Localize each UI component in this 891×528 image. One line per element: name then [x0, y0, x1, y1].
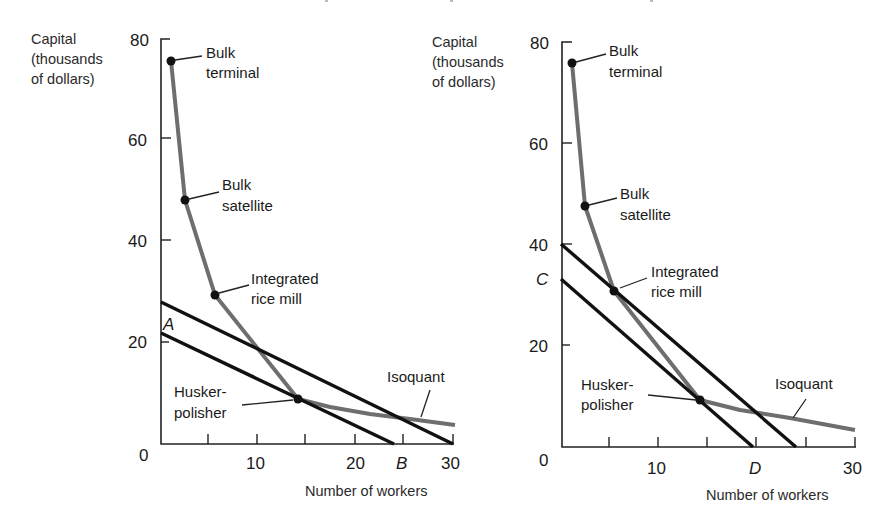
right-leader-lines: [576, 54, 806, 418]
left-label-isoquant: Isoquant: [387, 368, 445, 385]
cropped-header-remnant: [325, 0, 653, 2]
right-y-tick-40: 40: [529, 236, 548, 255]
left-point-bulk-terminal: [167, 57, 176, 66]
left-x-ticks: [208, 434, 453, 444]
left-y-ticks: [161, 138, 171, 342]
right-x-ticks: [609, 437, 855, 447]
left-point-bulk-satellite: [181, 196, 190, 205]
left-chart: Capital (thousands of dollars) 80 60 40 …: [31, 31, 460, 499]
right-label-integrated-rice-mill: Integrated rice mill: [651, 263, 723, 300]
right-y-tick-20: 20: [529, 337, 548, 356]
right-y-tick-80: 80: [530, 34, 549, 53]
left-x-tick-20: 20: [346, 454, 365, 473]
right-point-husker-polisher: [696, 396, 705, 405]
right-y-tick-60: 60: [529, 135, 548, 154]
left-y-tick-60: 60: [128, 131, 147, 150]
right-y-axis-label: Capital (thousands of dollars): [432, 34, 508, 90]
left-label-bulk-terminal: Bulk terminal: [206, 44, 259, 81]
left-x-axis-label: Number of workers: [305, 483, 427, 499]
left-x-tick-30: 30: [441, 454, 460, 473]
left-point-husker-polisher: [294, 395, 303, 404]
left-y-axis-label: Capital (thousands of dollars): [31, 31, 107, 87]
left-leader-lines: [175, 56, 430, 417]
left-label-bulk-satellite: Bulk satellite: [222, 176, 273, 214]
right-label-bulk-satellite: Bulk satellite: [620, 185, 671, 223]
left-x-tick-10: 10: [246, 454, 265, 473]
left-label-integrated-rice-mill: Integrated rice mill: [251, 270, 323, 307]
figure: Capital (thousands of dollars) 80 60 40 …: [0, 0, 891, 528]
left-y-tick-80: 80: [130, 31, 149, 50]
right-point-integrated-rice-mill: [610, 287, 619, 296]
right-x-tick-30: 30: [843, 459, 862, 478]
right-label-bulk-terminal: Bulk terminal: [609, 42, 662, 80]
left-x-label-B: B: [396, 454, 407, 473]
right-point-bulk-terminal: [568, 59, 577, 68]
left-point-integrated-rice-mill: [211, 291, 220, 300]
right-y-label-C: C: [536, 270, 549, 289]
right-chart: Capital (thousands of dollars) 80 60 40 …: [432, 34, 862, 503]
right-budget-line-CD: [561, 279, 753, 447]
left-y-tick-40: 40: [128, 232, 147, 251]
right-origin-label: 0: [539, 451, 548, 470]
right-x-axis-label: Number of workers: [706, 487, 828, 503]
left-origin-label: 0: [139, 446, 148, 465]
left-label-husker-polisher: Husker- polisher: [174, 383, 231, 421]
left-y-label-A: A: [162, 315, 174, 334]
right-x-tick-10: 10: [647, 459, 666, 478]
right-label-husker-polisher: Husker- polisher: [581, 376, 638, 413]
right-x-label-D: D: [749, 459, 761, 478]
left-y-tick-20: 20: [128, 333, 147, 352]
right-point-bulk-satellite: [581, 202, 590, 211]
right-label-isoquant: Isoquant: [775, 375, 833, 392]
